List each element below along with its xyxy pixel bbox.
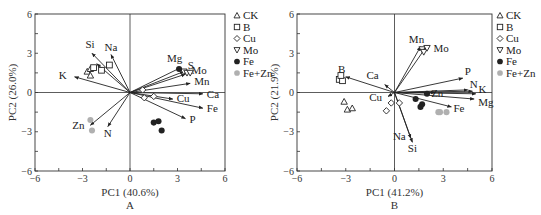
- legend-label: B: [506, 21, 513, 33]
- legend-cu-marker: [497, 36, 503, 42]
- loading-label-n: N: [104, 127, 112, 139]
- fe-marker: [424, 91, 430, 97]
- legend-ck-marker: [497, 13, 503, 18]
- legend-label: Mo: [243, 44, 259, 56]
- legend-fe-marker: [234, 59, 240, 65]
- legend-label: CK: [243, 9, 258, 21]
- y-axis-title: PC2 (26.0%): [6, 63, 19, 121]
- legend-item-b: B: [234, 21, 250, 33]
- legend-ck-marker: [234, 13, 240, 18]
- fe-marker: [417, 104, 423, 110]
- legend-label: Fe: [243, 55, 254, 67]
- loading-label-mg: Mg: [167, 52, 183, 64]
- y-tick-label: 6: [289, 9, 294, 20]
- legend-item-ck: CK: [497, 9, 521, 21]
- legend-label: B: [243, 21, 250, 33]
- loading-label-mn: Mn: [194, 75, 210, 87]
- loading-arrow-cu: [388, 93, 395, 97]
- loading-label-p: P: [465, 65, 471, 77]
- x-tick-label: 6: [490, 173, 495, 184]
- b-marker: [99, 67, 105, 73]
- b-marker: [107, 62, 113, 68]
- legend-label: CK: [506, 9, 521, 21]
- legend-label: Mo: [506, 44, 522, 56]
- loading-vectors: MnMoBCaCuPNKMgZnFeNaSi: [338, 33, 494, 155]
- legend-item-mo: Mo: [497, 44, 522, 56]
- y-tick-label: 0: [289, 87, 294, 98]
- x-tick-label: 0: [392, 173, 397, 184]
- loading-label-na: Na: [105, 41, 118, 53]
- score-points: [336, 45, 449, 115]
- legend: CKBCuMoFeFe+Zn: [497, 9, 536, 79]
- loading-arrow-n: [108, 93, 130, 127]
- legend-fe-zn-marker: [497, 70, 503, 76]
- y-axis-title: PC2 (21.9%): [268, 63, 281, 121]
- legend-fe-marker: [497, 59, 503, 65]
- loading-arrow-mo: [395, 48, 426, 92]
- loading-arrow-k: [75, 77, 130, 93]
- loading-label-zn: Zn: [72, 119, 85, 131]
- loading-label-k: K: [479, 83, 487, 95]
- loading-label-p: P: [189, 113, 195, 125]
- legend-cu-marker: [234, 36, 240, 42]
- x-tick-label: −3: [340, 173, 351, 184]
- fe-zn-marker: [87, 117, 93, 123]
- ck-marker: [349, 105, 355, 111]
- loading-label-k: K: [59, 69, 67, 81]
- loading-label-na: Na: [393, 130, 406, 142]
- legend-mo-marker: [234, 48, 240, 53]
- x-tick-label: 6: [223, 173, 228, 184]
- loading-arrow-zn: [90, 93, 130, 126]
- legend-item-fe: Fe: [234, 55, 254, 67]
- cu-marker: [383, 108, 389, 114]
- loading-label-fe: Fe: [453, 102, 464, 114]
- y-tick-label: −6: [21, 166, 32, 177]
- x-tick-label: 0: [128, 173, 133, 184]
- cu-marker: [388, 100, 394, 106]
- legend-item-mo: Mo: [234, 44, 259, 56]
- loading-label-fe: Fe: [207, 102, 218, 114]
- x-tick-label: −3: [77, 173, 88, 184]
- legend-label: Fe+Zn: [506, 67, 536, 79]
- x-axis-title: PC1 (41.2%): [366, 186, 424, 199]
- b-marker: [91, 65, 97, 71]
- fe-zn-marker: [435, 109, 441, 115]
- biplot-panel-b: −6−3036630−3−6PC1 (41.2%)PC2 (21.9%)BMnM…: [268, 9, 536, 212]
- loading-vectors: NaSiKZnNMgSMoMnCaCuFeP: [59, 38, 220, 138]
- loading-label-cu: Cu: [369, 91, 382, 103]
- loading-label-mg: Mg: [478, 96, 494, 108]
- legend-b-marker: [497, 24, 502, 29]
- b-marker: [338, 73, 344, 79]
- fe-zn-marker: [443, 109, 449, 115]
- legend-label: Cu: [506, 32, 519, 44]
- loading-label-si: Si: [408, 142, 417, 154]
- legend-item-cu: Cu: [234, 32, 256, 44]
- x-tick-label: 3: [441, 173, 446, 184]
- y-tick-label: −3: [283, 126, 294, 137]
- ck-marker: [341, 98, 347, 104]
- y-tick-label: 3: [289, 48, 294, 59]
- legend-mo-marker: [497, 48, 503, 53]
- loading-label-mn: Mn: [409, 33, 425, 45]
- x-tick-label: 3: [175, 173, 180, 184]
- loading-label-ca: Ca: [207, 88, 219, 100]
- loading-arrow-si: [92, 53, 130, 92]
- y-tick-label: 3: [27, 48, 32, 59]
- fe-marker: [176, 66, 182, 72]
- fe-marker: [155, 118, 161, 124]
- cu-marker: [151, 93, 157, 99]
- y-tick-label: 0: [27, 87, 32, 98]
- legend-label: Cu: [243, 32, 256, 44]
- panel-label: A: [126, 199, 134, 211]
- biplot-panel-a: −6−3036630−3−6PC1 (40.6%)PC2 (26.0%)ANaS…: [6, 9, 273, 212]
- legend-item-ck: CK: [234, 9, 258, 21]
- y-tick-label: −3: [21, 126, 32, 137]
- loading-label-n: N: [470, 78, 478, 90]
- pca-biplot-figure: −6−3036630−3−6PC1 (40.6%)PC2 (26.0%)ANaS…: [0, 0, 541, 215]
- loading-arrow-fe: [130, 93, 203, 109]
- legend-item-fe: Fe: [497, 55, 517, 67]
- y-tick-label: −6: [283, 166, 294, 177]
- loading-label-si: Si: [85, 38, 94, 50]
- legend-item-fe-zn: Fe+Zn: [497, 67, 536, 79]
- fe-marker: [159, 127, 165, 133]
